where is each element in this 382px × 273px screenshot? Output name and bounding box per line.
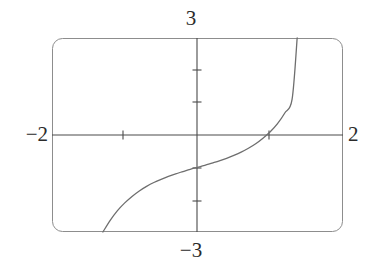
graph-figure: 3 −3 −2 2 [0, 0, 382, 273]
graph-plot-area [0, 0, 382, 273]
axis-label-y-max: 3 [0, 8, 382, 29]
axis-label-x-min: −2 [8, 124, 48, 145]
axis-label-x-max: 2 [348, 124, 378, 145]
axis-label-y-min: −3 [0, 240, 382, 261]
